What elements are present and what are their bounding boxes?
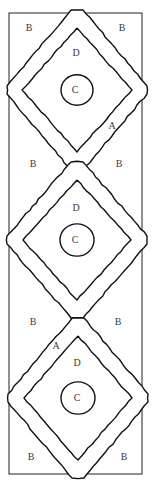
region-label-c: C	[72, 235, 79, 245]
region-label-d: D	[72, 203, 79, 213]
region-label-d: D	[72, 48, 79, 58]
region-label-b: B	[26, 23, 33, 33]
region-label-c: C	[72, 85, 79, 95]
region-label-b: B	[115, 317, 122, 327]
region-label-d: D	[73, 358, 80, 368]
region-label-b: B	[30, 317, 37, 327]
region-label-a: A	[52, 341, 59, 351]
region-label-b: B	[30, 159, 37, 169]
region-label-b: B	[28, 452, 35, 462]
region-label-c: C	[74, 393, 81, 403]
region-label-b: B	[121, 452, 128, 462]
region-label-b: B	[119, 23, 126, 33]
region-label-b: B	[116, 159, 123, 169]
region-label-a: A	[108, 121, 115, 131]
